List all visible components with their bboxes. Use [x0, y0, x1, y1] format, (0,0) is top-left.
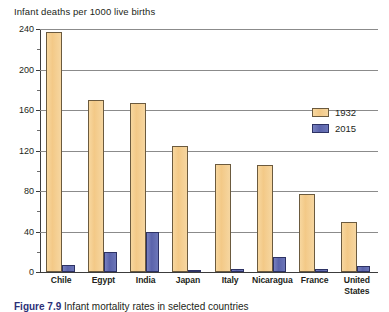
bar-1932-france[interactable]	[299, 194, 315, 272]
bar-1932-india[interactable]	[130, 103, 146, 272]
legend-label-2015: 2015	[335, 123, 356, 134]
bar-2015-united-states[interactable]	[357, 266, 370, 272]
figure-caption: Figure 7.9 Infant mortality rates in sel…	[14, 301, 386, 312]
x-label-line: India	[125, 275, 167, 286]
bar-1932-egypt[interactable]	[88, 100, 104, 272]
x-axis-label-france: France	[294, 275, 336, 286]
y-axis-label-160: 160	[19, 105, 34, 115]
bar-2015-italy[interactable]	[231, 269, 244, 272]
x-label-line: Chile	[40, 275, 82, 286]
y-axis-label-0: 0	[29, 267, 34, 277]
y-axis-label-120: 120	[19, 146, 34, 156]
x-label-line: Nicaragua	[251, 275, 293, 286]
bar-group	[88, 29, 117, 272]
bar-group	[215, 29, 244, 272]
bar-groups	[40, 29, 378, 272]
bar-1932-japan[interactable]	[172, 146, 188, 272]
y-axis-label-240: 240	[19, 24, 34, 34]
bar-2015-france[interactable]	[315, 269, 328, 272]
x-axis-label-nicaragua: Nicaragua	[251, 275, 293, 286]
legend-label-1932: 1932	[335, 107, 356, 118]
bar-1932-chile[interactable]	[46, 32, 62, 272]
figure-caption-text: Infant mortality rates in selected count…	[64, 301, 249, 312]
x-axis-label-egypt: Egypt	[82, 275, 124, 286]
bar-group	[257, 29, 286, 272]
figure-infant-mortality-bar-chart: Infant deaths per 1000 live births 04080…	[0, 0, 389, 312]
figure-number: Figure 7.9	[14, 301, 61, 312]
bar-group	[299, 29, 328, 272]
x-axis-label-italy: Italy	[209, 275, 251, 286]
bar-2015-chile[interactable]	[62, 265, 75, 272]
y-axis-label-200: 200	[19, 65, 34, 75]
y-axis-label-40: 40	[24, 227, 34, 237]
bar-1932-united-states[interactable]	[341, 222, 357, 272]
x-label-line: France	[294, 275, 336, 286]
y-tick-0	[36, 272, 40, 273]
bar-2015-japan[interactable]	[188, 270, 201, 272]
chart-title: Infant deaths per 1000 live births	[14, 6, 155, 17]
x-axis-label-india: India	[125, 275, 167, 286]
bar-2015-nicaragua[interactable]	[273, 257, 286, 272]
chart-legend: 1932 2015	[312, 105, 378, 137]
bar-group	[130, 29, 159, 272]
bar-2015-egypt[interactable]	[104, 252, 117, 272]
bar-2015-india[interactable]	[146, 232, 159, 273]
bar-group	[46, 29, 75, 272]
bar-group	[172, 29, 201, 272]
legend-swatch-1932	[312, 108, 329, 117]
x-label-line: States	[336, 286, 378, 297]
legend-item-1932: 1932	[312, 105, 378, 119]
legend-item-2015: 2015	[312, 121, 378, 135]
plot-area: 04080120160200240 1932 2015	[40, 29, 378, 272]
x-label-line: Japan	[167, 275, 209, 286]
x-label-line: United	[336, 275, 378, 286]
x-axis-label-japan: Japan	[167, 275, 209, 286]
bar-1932-italy[interactable]	[215, 164, 231, 272]
x-axis-label-chile: Chile	[40, 275, 82, 286]
bar-1932-nicaragua[interactable]	[257, 165, 273, 272]
x-axis-label-united-states: UnitedStates	[336, 275, 378, 296]
legend-swatch-2015	[312, 124, 329, 133]
y-axis-label-80: 80	[24, 186, 34, 196]
bar-group	[341, 29, 370, 272]
x-label-line: Egypt	[82, 275, 124, 286]
gridline-0	[40, 272, 378, 273]
x-label-line: Italy	[209, 275, 251, 286]
